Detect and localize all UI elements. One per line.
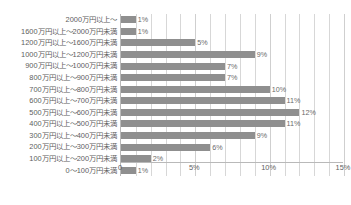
bar-value-label: 9%	[257, 132, 267, 139]
bar	[121, 63, 225, 70]
bar-value-label: 12%	[301, 109, 315, 116]
category-label: 200万円以上～300万円未満	[0, 141, 120, 153]
bar-row: 7%	[121, 72, 343, 84]
category-label: 1000万円以上～1200万円未満	[0, 49, 120, 61]
bar	[121, 74, 225, 81]
bar-row: 12%	[121, 107, 343, 119]
bars-panel: 1%1%5%9%7%7%10%11%12%11%9%6%2%1%	[120, 14, 343, 176]
bar-row: 9%	[121, 49, 343, 61]
bar	[121, 109, 299, 116]
category-label: 2000万円以上～	[0, 14, 120, 26]
bar	[121, 28, 136, 35]
bar-row: 6%	[121, 141, 343, 153]
bar	[121, 51, 255, 58]
category-label: 100万円以上～200万円未満	[0, 153, 120, 165]
bar	[121, 16, 136, 23]
bar	[121, 144, 210, 151]
category-label: 900万円以上～1000万円未満	[0, 60, 120, 72]
bar-row: 9%	[121, 130, 343, 142]
bar	[121, 120, 285, 127]
category-label: 500万円以上～600万円未満	[0, 107, 120, 119]
category-label: 300万円以上～400万円未満	[0, 130, 120, 142]
category-label: 600万円以上～700万円未満	[0, 95, 120, 107]
bar	[121, 86, 270, 93]
bar-value-label: 1%	[138, 28, 148, 35]
bar	[121, 132, 255, 139]
bar-value-label: 5%	[197, 39, 207, 46]
bar-row: 11%	[121, 95, 343, 107]
clipped-title-strip	[0, 0, 351, 12]
category-label: 400万円以上～500万円未満	[0, 118, 120, 130]
income-distribution-bar-chart: 2000万円以上～1600万円以上～2000万円未満1200万円以上～1600万…	[0, 0, 351, 205]
bar-value-label: 11%	[287, 97, 301, 104]
bar-value-label: 1%	[138, 16, 148, 23]
x-tick-label: 10%	[261, 164, 276, 171]
bar	[121, 39, 195, 46]
bar-value-label: 6%	[212, 144, 222, 151]
bar-row: 1%	[121, 26, 343, 38]
category-label: 800万円以上～900万円未満	[0, 72, 120, 84]
x-axis-tick-labels: 05%10%15%	[120, 164, 343, 178]
category-axis-labels: 2000万円以上～1600万円以上～2000万円未満1200万円以上～1600万…	[0, 14, 120, 176]
bar-value-label: 7%	[227, 74, 237, 81]
bar-value-label: 9%	[257, 51, 267, 58]
bar-value-label: 7%	[227, 63, 237, 70]
x-tick-label: 15%	[336, 164, 351, 171]
bar	[121, 97, 285, 104]
category-label: 1600万円以上～2000万円未満	[0, 26, 120, 38]
category-label: 1200万円以上～1600万円未満	[0, 37, 120, 49]
bar-value-label: 11%	[287, 120, 301, 127]
bar-row: 1%	[121, 14, 343, 26]
x-tick-label: 5%	[189, 164, 200, 171]
bar-row: 11%	[121, 118, 343, 130]
category-label: 700万円以上～800万円未満	[0, 83, 120, 95]
bar-row: 7%	[121, 60, 343, 72]
bar-row: 5%	[121, 37, 343, 49]
x-axis-line	[120, 162, 343, 163]
category-label: 0～100万円未満	[0, 165, 120, 177]
bar-row: 10%	[121, 83, 343, 95]
gridline	[344, 14, 345, 176]
x-tick-label: 0	[118, 164, 122, 171]
bar-value-label: 10%	[272, 86, 286, 93]
bar-series: 1%1%5%9%7%7%10%11%12%11%9%6%2%1%	[121, 14, 343, 176]
